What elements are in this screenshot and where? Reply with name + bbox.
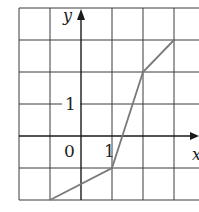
y-tick-label-1: 1	[65, 94, 76, 114]
x-tick-label-1: 1	[104, 141, 115, 161]
grid	[19, 8, 199, 200]
function-graph: y x 0 1 1	[0, 0, 199, 212]
x-axis-arrow-icon	[190, 132, 199, 140]
origin-label: 0	[64, 141, 75, 161]
x-axis-label: x	[192, 145, 199, 164]
y-axis-label: y	[62, 6, 73, 25]
y-axis-arrow-icon	[77, 9, 85, 20]
